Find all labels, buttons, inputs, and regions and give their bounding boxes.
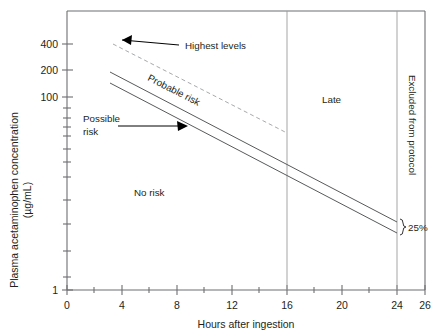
annotation-25-percent: 25% [408,222,428,233]
arrowhead-highest-levels [122,35,132,45]
y-tick-label-200: 200 [40,64,58,76]
x-tick-label-4: 4 [119,299,125,311]
x-axis-title: Hours after ingestion [198,318,295,330]
vertical-divider-lines [287,11,397,290]
plot-frame [67,11,425,290]
annotation-possible-risk-line2: risk [83,126,98,137]
brace-25-percent [400,219,406,235]
annotation-probable-risk: Probable risk [146,72,202,108]
x-tick-label-26: 26 [419,299,431,311]
y-tick-label-100: 100 [40,91,58,103]
x-tick-label-24: 24 [391,299,403,311]
series-highest-levels [113,44,287,133]
x-tick-label-20: 20 [336,299,348,311]
zone-label-no-risk: No risk [134,187,165,198]
y-axis-title: Plasma acetaminophen concentration [8,112,20,288]
annotation-highest-levels: Highest levels [185,40,246,51]
x-tick-label-8: 8 [174,299,180,311]
zone-label-excluded-from-protocol: Excluded from protocol [407,75,418,175]
x-tick-label-16: 16 [281,299,293,311]
x-tick-label-0: 0 [64,299,70,311]
y-axis-units: (µg/mL) [21,182,33,218]
annotation-possible-risk-line1: Possible [83,113,121,124]
zone-label-late: Late [322,94,342,105]
brace-glyph [400,219,406,235]
y-tick-label-400: 400 [40,38,58,50]
x-tick-label-12: 12 [226,299,238,311]
y-tick-label-1: 1 [52,284,58,296]
nomogram-chart: 400 200 100 1 0 4 8 12 16 20 24 26 Plasm… [0,0,438,333]
series-probable-risk [110,72,397,222]
series-possible-risk [110,83,397,233]
